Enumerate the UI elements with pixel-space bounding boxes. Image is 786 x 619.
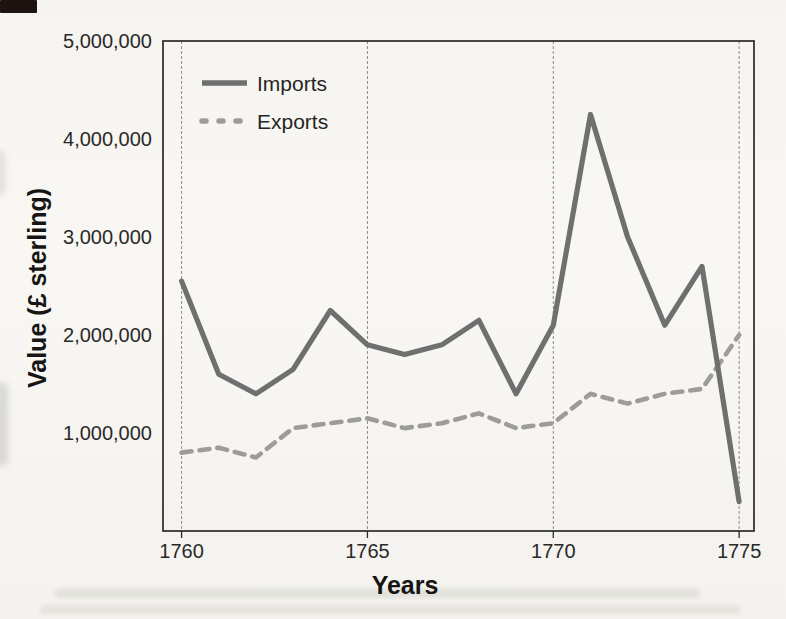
y-axis-title: Value (£ sterling) — [23, 188, 51, 388]
legend-label-exports: Exports — [257, 110, 328, 133]
y-axis-tick-label-4,000,000: 4,000,000 — [63, 128, 152, 150]
x-axis-tick-label-1775: 1775 — [717, 540, 762, 562]
y-axis-tick-label-5,000,000: 5,000,000 — [63, 30, 152, 52]
chart-canvas: 17601765177017751,000,0002,000,0003,000,… — [0, 0, 786, 619]
x-axis-tick-label-1765: 1765 — [345, 540, 390, 562]
x-axis-tick-label-1770: 1770 — [531, 540, 576, 562]
y-axis-tick-label-1,000,000: 1,000,000 — [63, 422, 152, 444]
trade-value-line-chart: 17601765177017751,000,0002,000,0003,000,… — [0, 0, 786, 619]
y-axis-tick-label-2,000,000: 2,000,000 — [63, 324, 152, 346]
legend-label-imports: Imports — [257, 72, 327, 95]
x-axis-tick-label-1760: 1760 — [159, 540, 204, 562]
y-axis-tick-label-3,000,000: 3,000,000 — [63, 226, 152, 248]
imports-line — [182, 115, 740, 502]
x-axis-title: Years — [372, 571, 439, 599]
exports-line — [182, 335, 740, 458]
scanned-page: 17601765177017751,000,0002,000,0003,000,… — [0, 0, 786, 619]
